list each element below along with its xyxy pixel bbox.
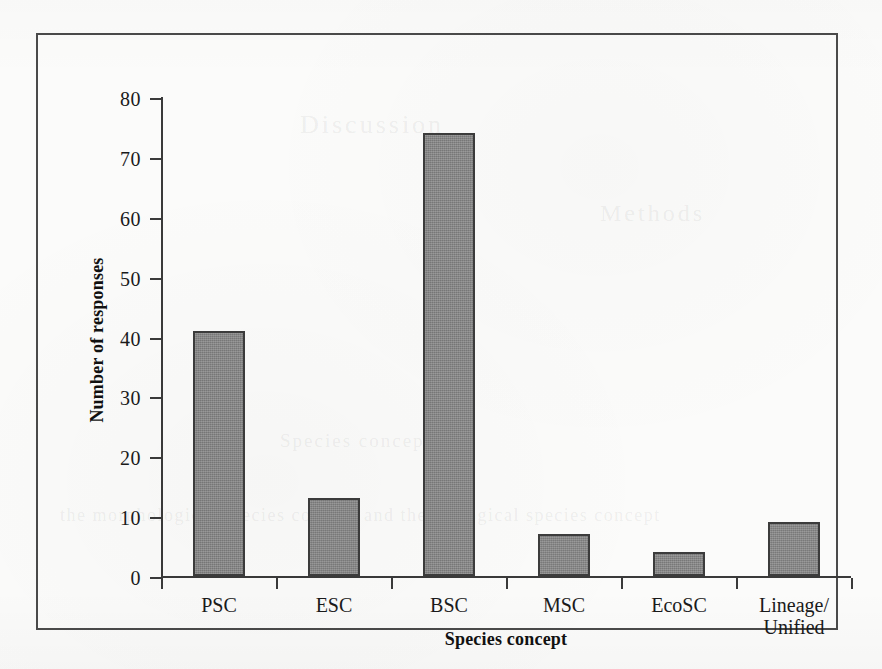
y-tick-label-60: 60 <box>120 207 141 230</box>
x-label-psc: PSC <box>201 594 237 616</box>
x-label-bsc: BSC <box>430 594 468 616</box>
y-tick-30 <box>150 397 161 399</box>
x-axis-title: Species concept <box>445 629 567 650</box>
x-tick-4 <box>621 578 623 589</box>
x-tick-2 <box>391 578 393 589</box>
y-tick-label-20: 20 <box>120 447 141 470</box>
y-tick-label-10: 10 <box>120 507 141 530</box>
x-label-ecosc: EcoSC <box>651 594 707 616</box>
y-tick-label-50: 50 <box>120 267 141 290</box>
y-tick-label-40: 40 <box>120 327 141 350</box>
x-tick-1 <box>276 578 278 589</box>
x-tick-5 <box>736 578 738 589</box>
figure-frame: Number of responses Species concept 0102… <box>36 33 838 630</box>
y-tick-70 <box>150 158 161 160</box>
y-tick-label-80: 80 <box>120 88 141 111</box>
plot-area: 01020304050607080 PSCESCBSCMSCEcoSCLinea… <box>161 97 851 578</box>
x-label-esc: ESC <box>316 594 353 616</box>
bar-psc <box>193 331 245 576</box>
bar-esc <box>308 498 360 576</box>
y-tick-label-0: 0 <box>131 567 142 590</box>
bar-bsc <box>423 133 475 576</box>
x-tick-0 <box>161 578 163 589</box>
x-label-msc: MSC <box>543 594 585 616</box>
y-tick-0 <box>150 577 161 579</box>
y-tick-80 <box>150 98 161 100</box>
bar-lineage-unified <box>768 522 820 576</box>
x-tick-3 <box>506 578 508 589</box>
scanned-page-background: Discussion Methods Species concepts the … <box>0 0 882 669</box>
y-tick-label-30: 30 <box>120 387 141 410</box>
y-tick-label-70: 70 <box>120 147 141 170</box>
x-tick-6 <box>851 578 853 589</box>
y-axis-line <box>161 97 163 578</box>
y-tick-50 <box>150 278 161 280</box>
y-tick-20 <box>150 457 161 459</box>
y-tick-10 <box>150 517 161 519</box>
bar-ecosc <box>653 552 705 576</box>
bar-msc <box>538 534 590 576</box>
y-axis-title: Number of responses <box>87 257 108 422</box>
y-tick-40 <box>150 338 161 340</box>
y-tick-60 <box>150 218 161 220</box>
x-label-lineage-unified: Lineage/ Unified <box>759 594 829 639</box>
